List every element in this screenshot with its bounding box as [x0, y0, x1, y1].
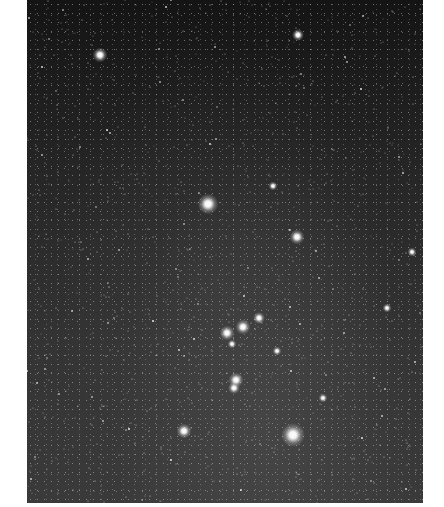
- star-star-top-left: [93, 48, 108, 63]
- star-rigel: [281, 423, 305, 447]
- star-orion-nebula-b: [228, 382, 240, 394]
- star-star-far-right: [408, 248, 417, 257]
- star-alnilam: [236, 320, 251, 335]
- star-mintaka: [253, 312, 265, 324]
- star-belt-minor: [228, 340, 237, 349]
- star-field: [27, 0, 423, 503]
- star-star-right-lower: [319, 394, 328, 403]
- star-belt-right: [273, 347, 282, 356]
- star-meissa-cluster: [269, 182, 278, 191]
- star-saiph: [177, 424, 192, 439]
- night-sky-photo: [27, 0, 423, 503]
- star-bellatrix: [290, 230, 305, 245]
- star-alnitak: [220, 326, 235, 341]
- star-star-right: [383, 304, 392, 313]
- star-star-top-center: [292, 29, 304, 41]
- star-betelgeuse: [198, 194, 219, 215]
